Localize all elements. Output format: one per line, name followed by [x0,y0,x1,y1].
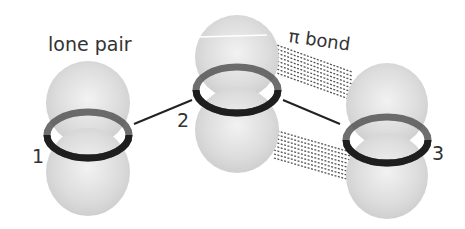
atom-1 [46,61,130,216]
atom-3-label: 3 [432,142,444,164]
pi-bond-dashes-lower [274,130,350,180]
atom-3 [346,63,428,219]
atom-2 [195,15,279,173]
atom-2-label: 2 [177,109,189,131]
orbital-lobe-bottom [195,87,279,173]
orbital-lobe-bottom [346,133,428,219]
atom-1-label: 1 [32,145,44,167]
orbital-diagram: lone pair π bond 1 2 3 [0,0,465,229]
bond-line-2-3 [283,100,340,124]
orbital-lobe-bottom [46,128,130,216]
orbital-lobe-top [195,15,279,99]
lone-pair-label: lone pair [48,33,132,55]
pi-bond-label: π bond [287,25,351,54]
